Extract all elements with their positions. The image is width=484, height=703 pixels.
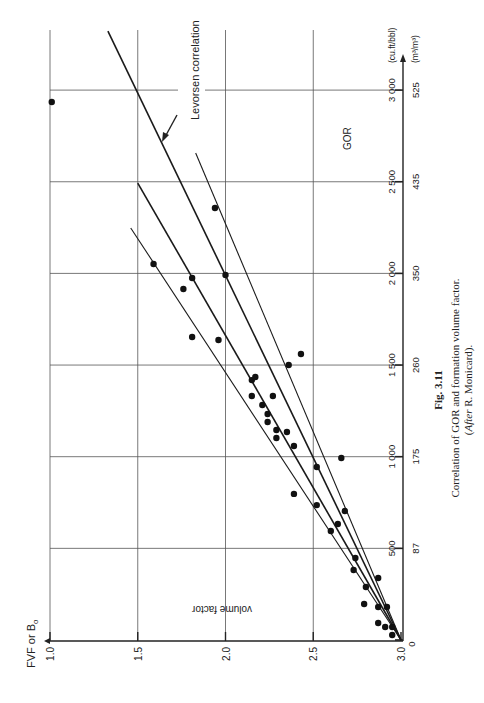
gor-tick-label-metric: 260 [410, 357, 421, 373]
data-point [389, 624, 395, 630]
data-point [180, 286, 186, 292]
figure-caption-line2: (After R. Monicard). [462, 345, 475, 436]
data-point [189, 275, 195, 281]
figure-number: Fig. 3.11 [432, 370, 444, 409]
gor-tick-label-metric: 525 [410, 82, 421, 98]
fvf-tick-label: 1.0 [45, 647, 56, 661]
data-point [363, 584, 369, 590]
figure-caption-line1: Correlation of GOR and formation volume … [449, 278, 461, 497]
levorsen-label: Levorsen correlation [189, 20, 201, 120]
data-point [264, 419, 270, 425]
data-point [382, 624, 388, 630]
gor-tick-label: 1 000 [386, 445, 397, 469]
gor-tick-label-metric: 350 [410, 265, 421, 281]
fvf-tick-label: 2.0 [221, 647, 232, 661]
data-point [342, 508, 348, 514]
correlation-line-c [131, 228, 401, 640]
fvf-tick-label: 3.0 [396, 647, 407, 661]
correlation-line-a [196, 153, 401, 640]
data-point [375, 604, 381, 610]
fvf-axis-arrow-icon [44, 638, 50, 644]
gor-inner-label: GOR [342, 127, 353, 150]
gor-tick-label: 2 000 [386, 262, 397, 286]
fvf-tick-label: 2.5 [308, 647, 319, 661]
data-point [291, 491, 297, 497]
data-point [284, 429, 290, 435]
data-point [249, 393, 255, 399]
data-point [291, 443, 297, 449]
data-point [314, 464, 320, 470]
gor-tick-label: 0 [406, 641, 417, 646]
gor-fvf-chart: 3.02.52.01.51.00500871 0001751 5002602 0… [0, 0, 484, 703]
data-point [222, 272, 228, 278]
data-point [49, 99, 55, 105]
data-point [273, 435, 279, 441]
data-points [49, 99, 396, 638]
levorsen-arrow-icon [162, 115, 177, 142]
gor-axis-arrow-icon [400, 54, 406, 62]
data-point [298, 351, 304, 357]
data-point [259, 402, 265, 408]
gor-tick-label-metric: 435 [410, 174, 421, 190]
volume-factor-label: volume factor [191, 604, 252, 615]
data-point [335, 521, 341, 527]
data-point [338, 455, 344, 461]
data-point [361, 601, 367, 607]
data-point [150, 261, 156, 267]
data-point [189, 334, 195, 340]
gor-tick-label: 500 [386, 540, 397, 556]
data-point [285, 362, 291, 368]
data-point [270, 393, 276, 399]
gor-unit-secondary: (m³/m³) [410, 35, 420, 63]
data-point [273, 427, 279, 433]
data-point [328, 528, 334, 534]
gor-tick-label: 3 000 [386, 78, 397, 102]
data-point [389, 632, 395, 638]
data-point [314, 502, 320, 508]
data-point [352, 555, 358, 561]
gor-tick-label-metric: 175 [410, 449, 421, 465]
fvf-tick-label: 1.5 [133, 647, 144, 661]
data-point [375, 620, 381, 626]
data-point [264, 411, 270, 417]
fvf-axis-title: FVF or Bo [25, 619, 40, 668]
data-point [375, 575, 381, 581]
gor-tick-label-metric: 87 [410, 543, 421, 554]
data-point [212, 205, 218, 211]
data-point [384, 604, 390, 610]
data-point [350, 567, 356, 573]
data-point [252, 374, 258, 380]
gor-unit-primary: (cu.ft/bbl) [387, 27, 397, 63]
data-point [215, 337, 221, 343]
gor-tick-label: 2 500 [386, 170, 397, 194]
axes: 3.02.52.01.51.00500871 0001751 5002602 0… [44, 54, 421, 661]
gor-tick-label: 1 500 [386, 353, 397, 377]
